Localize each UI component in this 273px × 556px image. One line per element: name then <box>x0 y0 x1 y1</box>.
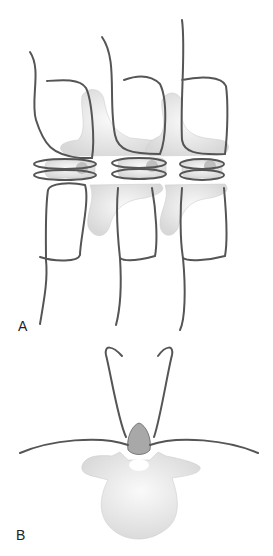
panel-label-a: A <box>18 318 28 334</box>
panel-label-b: B <box>16 527 25 543</box>
panel-a-vertebrae <box>45 90 229 236</box>
illustration: A B <box>0 0 273 556</box>
